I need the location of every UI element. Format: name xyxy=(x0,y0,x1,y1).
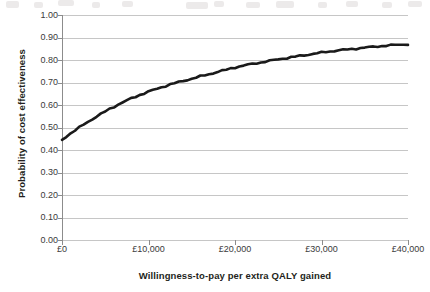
x-axis-tick-labels: £0£10,000£20,000£30,000£40,000 xyxy=(0,0,430,292)
x-axis-tick-label: £10,000 xyxy=(109,245,189,254)
y-axis-title: Probability of cost effectiveness xyxy=(16,9,27,239)
x-axis-tick-label: £30,000 xyxy=(282,245,362,254)
x-axis-tick-label: £20,000 xyxy=(195,245,275,254)
x-axis-tick-label: £0 xyxy=(22,245,102,254)
x-axis-tick-label: £40,000 xyxy=(368,245,430,254)
x-axis-title: Willingness-to-pay per extra QALY gained xyxy=(62,270,408,281)
cost-effectiveness-acceptability-chart: 0.000.100.200.300.400.500.600.700.800.90… xyxy=(0,0,430,292)
